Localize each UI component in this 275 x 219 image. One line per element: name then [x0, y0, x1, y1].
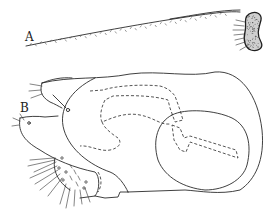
stipple-dot [253, 38, 254, 39]
stipple-dot [254, 30, 255, 31]
flagellum-seta [125, 30, 127, 32]
stipple-dot [257, 23, 258, 24]
stipple-dot [252, 27, 253, 28]
stipple-dot [252, 39, 253, 40]
stipple-dot [248, 45, 249, 46]
flagellum-seta [170, 21, 172, 23]
stipple-dot [257, 47, 258, 48]
stipple-dot [248, 17, 249, 18]
stipple-dot [252, 22, 253, 23]
flagellum-seta [205, 17, 207, 19]
stipple-dot [252, 31, 253, 32]
stipple-dot [258, 43, 259, 44]
stipple-dot [252, 47, 253, 48]
stipple-dot [248, 47, 249, 48]
stipple-dot [249, 44, 250, 45]
flagellum-seta [55, 41, 57, 43]
head-lobe [41, 83, 62, 108]
stipple-dot [248, 22, 249, 23]
stipple-dot [249, 16, 250, 17]
stipple-dot [255, 31, 256, 32]
flagellum-seta [130, 27, 132, 29]
flagellum-seta [215, 15, 217, 17]
stipple-dot [255, 38, 256, 39]
stipple-dot [252, 42, 253, 43]
flagellum-seta [160, 22, 162, 24]
stipple-dot [252, 33, 253, 34]
stipple-dot [250, 31, 251, 32]
stipple-dot [250, 40, 251, 41]
panel-label-b: B [20, 101, 29, 115]
dashed-structure-lower [101, 100, 170, 124]
stipple-dot [249, 15, 250, 16]
stipple-dot [247, 26, 248, 27]
stipple-dot [248, 15, 249, 16]
panel-a: A [24, 10, 262, 51]
stipple-dot [253, 47, 254, 48]
stylet-tip [66, 108, 69, 111]
stipple-dot [247, 26, 248, 27]
stipple-dot [249, 28, 250, 29]
lower-appendage-top [20, 116, 58, 118]
stipple-dot [253, 45, 254, 46]
stipple-dot [252, 29, 253, 30]
stipple-dot [258, 47, 259, 48]
flagellum-seta [45, 43, 47, 45]
antenna-flagellum [26, 12, 240, 46]
stipple-dot [255, 43, 256, 44]
antenna-basal-segment [244, 12, 262, 50]
flagellum-seta [195, 19, 197, 21]
flagellum-seta [190, 17, 192, 19]
stipple-dot [258, 25, 259, 26]
circular-structure [156, 111, 249, 190]
flagellum-seta [150, 24, 152, 26]
head-setae [29, 84, 42, 98]
stipple-dot [254, 29, 255, 30]
flagellum-seta [135, 28, 137, 30]
stipple-dot [254, 42, 255, 43]
stipple-dot [251, 45, 252, 46]
flagellum-seta [185, 20, 187, 22]
lower-appendage-base [95, 192, 128, 198]
flagellum-seta [165, 23, 167, 25]
stipple-dot [252, 33, 253, 34]
stipple-dot [255, 36, 256, 37]
stipple-dot [248, 41, 249, 42]
flagellum-seta [120, 29, 122, 31]
flagellum-setae [30, 13, 227, 47]
flagellum-seta [75, 38, 77, 40]
flagellum-seta [155, 25, 157, 27]
stipple-dot [249, 42, 250, 43]
stipple-dot [248, 29, 249, 30]
flagellum-seta [100, 32, 102, 34]
stipple-dot [250, 26, 251, 27]
stipple-dot [247, 34, 248, 35]
flagellum-seta [85, 36, 87, 38]
stipple-dot [252, 18, 253, 19]
stipple-dot [247, 40, 248, 41]
stipple-dot [255, 24, 256, 25]
flagellum-seta [175, 22, 177, 24]
stipple-dot [254, 17, 255, 18]
lower-appendage [20, 118, 99, 198]
stipple-dot [247, 20, 248, 21]
flagellum-seta [105, 33, 107, 35]
stipple-dot [250, 46, 251, 47]
stipple-dot [249, 47, 250, 48]
dashed-structure-rod [172, 125, 238, 158]
stipple-dot [252, 43, 253, 44]
illustration: A B [0, 0, 275, 219]
appendage-bristles [28, 158, 90, 208]
stipple-dot [247, 28, 248, 29]
panel-label-a: A [24, 30, 34, 44]
flagellum-seta [95, 35, 97, 37]
dashed-structure-loop [80, 122, 120, 150]
stipple-dot [253, 16, 254, 17]
stipple-dot [253, 15, 254, 16]
stipple-dot [253, 42, 254, 43]
stipple-dot [255, 20, 256, 21]
stipple-dot [257, 37, 258, 38]
flagellum-seta [210, 14, 212, 16]
flagellum-seta [110, 30, 112, 32]
pore [28, 122, 31, 125]
